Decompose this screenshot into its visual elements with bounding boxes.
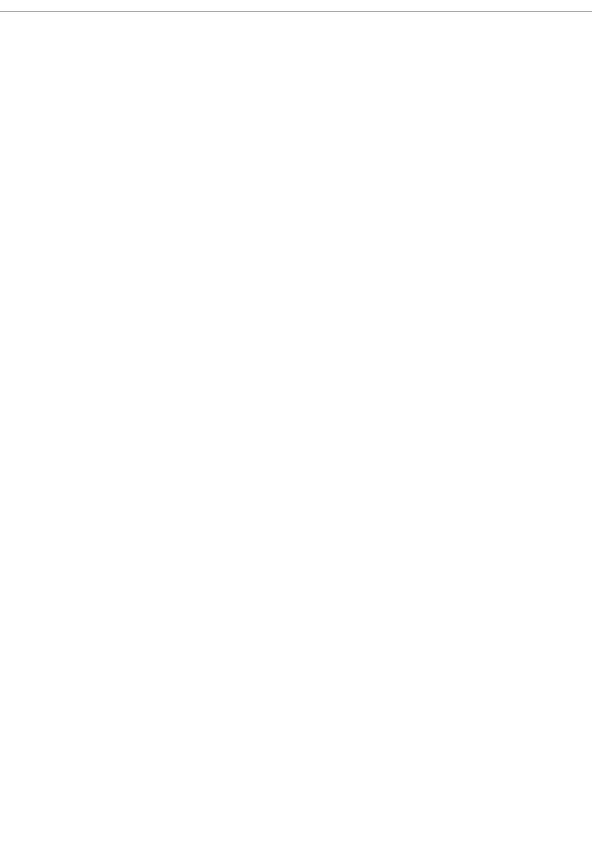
figure-top bbox=[0, 0, 592, 420]
plot-area-bottom bbox=[0, 420, 592, 845]
plot-area-top bbox=[0, 0, 592, 420]
figure-bottom bbox=[0, 420, 592, 845]
